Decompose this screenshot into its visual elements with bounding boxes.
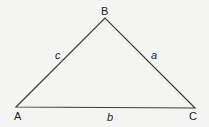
- side-label-b: b: [107, 111, 113, 123]
- vertex-label-a: A: [14, 110, 22, 122]
- triangle-diagram: B A C c a b: [0, 0, 209, 127]
- vertex-label-b: B: [101, 5, 108, 17]
- vertex-label-c: C: [189, 110, 197, 122]
- triangle-shape: [16, 18, 195, 108]
- side-label-a: a: [151, 49, 157, 61]
- side-label-c: c: [55, 49, 61, 61]
